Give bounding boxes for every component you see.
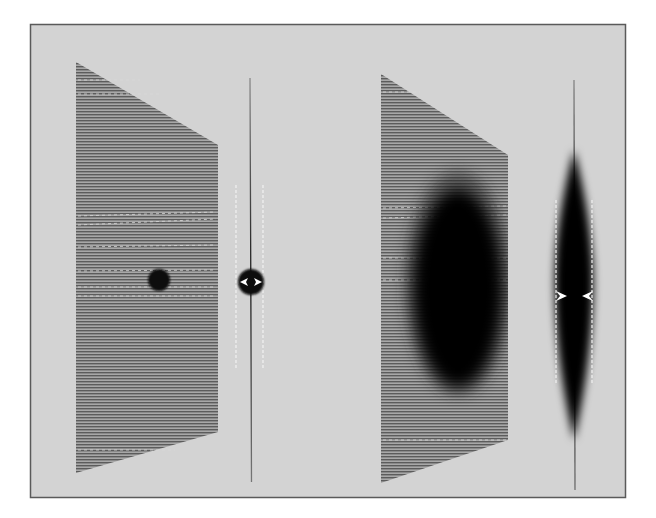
- figure: [0, 0, 656, 518]
- right-dark-ellipse: [414, 190, 502, 386]
- diagram-canvas: [0, 0, 656, 518]
- left-dark-spot: [148, 269, 170, 291]
